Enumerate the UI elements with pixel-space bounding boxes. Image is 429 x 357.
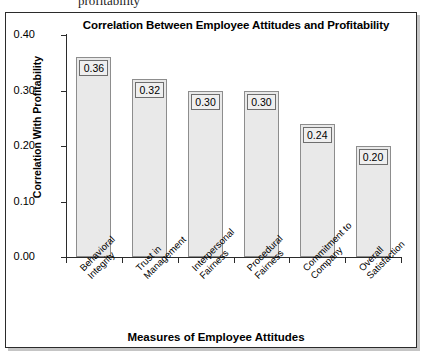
document-fragment-text: profitability [78,0,140,9]
bar: 0.30 [188,91,223,258]
x-axis-tick [401,258,402,263]
x-axis-tick [178,258,179,263]
bar-value-label: 0.30 [191,94,220,110]
chart-title: Correlation Between Employee Attitudes a… [61,19,411,31]
bar: 0.30 [244,91,279,258]
bar-value-label: 0.36 [79,60,108,76]
x-axis-tick [66,258,67,263]
x-axis-tick [345,258,346,263]
bar-value-label: 0.20 [359,149,388,165]
chart-figure-frame: Correlation Between Employee Attitudes a… [5,12,417,348]
x-axis-tick [289,258,290,263]
bar: 0.32 [132,79,167,257]
x-axis-tick [122,258,123,263]
bar: 0.36 [76,57,111,257]
bar-value-label: 0.24 [303,127,332,143]
y-axis-tick-label: 0.00 [14,250,35,262]
document-text-fragment: profitability [0,0,429,11]
y-axis-title: Correlation With Profitability [31,27,43,227]
bar-value-label: 0.32 [135,82,164,98]
x-axis-tick [234,258,235,263]
x-axis-title: Measures of Employee Attitudes [46,331,386,343]
bar-value-label: 0.30 [247,94,276,110]
